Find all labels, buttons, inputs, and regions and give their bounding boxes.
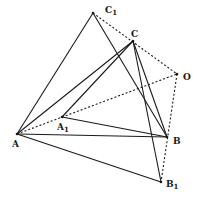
segment-a-c xyxy=(17,41,133,134)
label-a1: A1 xyxy=(56,122,69,134)
segment-c1-b xyxy=(93,13,167,137)
point-a1 xyxy=(61,116,64,119)
point-b1 xyxy=(160,181,163,184)
segment-a-c1 xyxy=(17,13,93,134)
segment-a-b1 xyxy=(17,134,161,182)
label-c: C xyxy=(131,29,138,39)
label-b1: B1 xyxy=(166,179,179,191)
segment-a-b xyxy=(17,134,167,137)
point-o xyxy=(176,73,179,76)
label-a: A xyxy=(11,139,20,149)
dotted-a-o xyxy=(17,74,177,134)
point-c xyxy=(132,40,135,43)
segment-c-b1 xyxy=(133,41,161,182)
segment-a1-c xyxy=(62,41,133,117)
label-b: B xyxy=(173,136,181,146)
point-c1 xyxy=(92,12,95,15)
point-b xyxy=(166,136,169,139)
point-a xyxy=(16,133,19,136)
label-c1: C1 xyxy=(105,5,117,17)
label-o: O xyxy=(183,72,191,82)
geometry-figure: A A1 B B1 C C1 O xyxy=(0,0,200,199)
dotted-c1-o xyxy=(93,13,177,74)
